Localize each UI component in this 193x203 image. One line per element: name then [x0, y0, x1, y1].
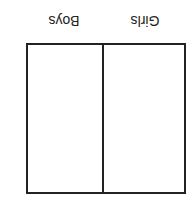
header-boys: Boys [23, 13, 105, 29]
rotated-table-figure: Girls Boys [0, 0, 193, 203]
column-divider [102, 45, 104, 192]
header-girls: Girls [104, 13, 186, 29]
tally-table [26, 43, 186, 194]
